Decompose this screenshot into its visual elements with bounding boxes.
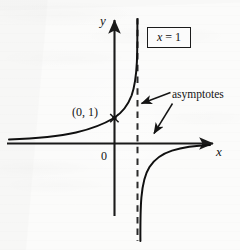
vertical-asymptote-equation-operator: = [165, 30, 172, 44]
vertical-asymptote-equation-box: x=1 [147, 27, 191, 48]
plot-canvas [0, 0, 240, 250]
point-label-0-1: (0, 1) [72, 106, 98, 118]
vertical-asymptote-equation-value: 1 [175, 30, 181, 44]
graph-figure: y x 0 (0, 1) asymptotes x=1 [0, 0, 240, 250]
x-axis-label: x [216, 145, 222, 158]
asymptotes-label: asymptotes [172, 89, 224, 101]
y-axis-label: y [100, 14, 106, 27]
vertical-asymptote-equation-variable: x [157, 30, 162, 44]
arrow-to-vertical-asymptote [142, 93, 171, 104]
arrow-to-horizontal-asymptote [154, 104, 173, 134]
origin-label: 0 [101, 150, 107, 162]
curve-right-branch [140, 145, 210, 241]
